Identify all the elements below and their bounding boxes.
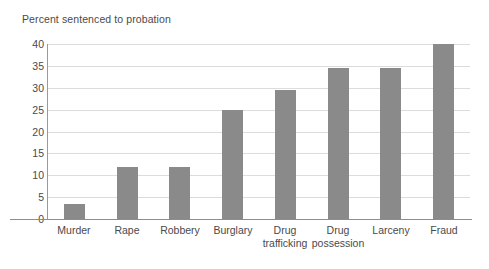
x-axis-category-labels: MurderRapeRobberyBurglaryDrugtrafficking… xyxy=(48,224,470,266)
bar-chart: Percent sentenced to probation 051015202… xyxy=(0,0,489,269)
y-tick-label-30: 30 xyxy=(2,83,44,94)
bar-murder xyxy=(64,204,85,219)
gridline-35 xyxy=(48,66,470,67)
y-tick-label-15: 15 xyxy=(2,148,44,159)
bar-fraud xyxy=(433,44,454,219)
bar-drug-trafficking xyxy=(275,90,296,219)
gridline-15 xyxy=(48,153,470,154)
x-label-fraud: Fraud xyxy=(404,224,484,237)
x-axis-line xyxy=(10,219,472,220)
y-tick-label-10: 10 xyxy=(2,170,44,181)
plot-area xyxy=(48,44,470,219)
y-tick-label-5: 5 xyxy=(2,192,44,203)
bar-robbery xyxy=(169,167,190,220)
gridline-5 xyxy=(48,197,470,198)
y-tick-label-20: 20 xyxy=(2,126,44,137)
gridline-25 xyxy=(48,110,470,111)
chart-title: Percent sentenced to probation xyxy=(22,13,171,25)
bar-burglary xyxy=(222,110,243,219)
gridline-10 xyxy=(48,175,470,176)
gridline-20 xyxy=(48,132,470,133)
bar-drug-possession xyxy=(328,68,349,219)
bar-larceny xyxy=(380,68,401,219)
y-tick-label-40: 40 xyxy=(2,39,44,50)
bar-rape xyxy=(117,167,138,220)
y-tick-label-35: 35 xyxy=(2,61,44,72)
gridline-30 xyxy=(48,88,470,89)
gridline-40 xyxy=(48,44,470,45)
y-tick-label-25: 25 xyxy=(2,104,44,115)
